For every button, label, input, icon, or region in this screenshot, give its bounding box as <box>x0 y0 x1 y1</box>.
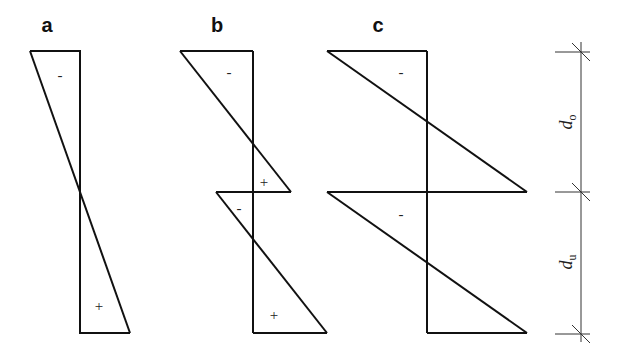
sign-minus: - <box>237 200 242 216</box>
sign-minus: - <box>58 67 63 83</box>
dimension-label-upper: do <box>556 115 579 130</box>
panel-c: - - <box>327 51 527 333</box>
panel-a: - + <box>30 51 130 333</box>
sign-minus: - <box>227 64 232 80</box>
stress-distribution-diagram: a b c - + - + - + - - <box>0 0 621 363</box>
panel-b: - + - + <box>180 51 327 333</box>
sign-plus: + <box>95 298 103 314</box>
sign-minus: - <box>399 64 404 80</box>
panel-label-b: b <box>211 14 223 36</box>
panel-label-a: a <box>41 14 53 36</box>
sign-plus: + <box>270 307 278 323</box>
panel-label-c: c <box>372 14 383 36</box>
panel-b-upper-diagonal <box>180 51 291 192</box>
dimension-label-lower: du <box>556 255 579 270</box>
dimension-line: do du <box>555 42 590 343</box>
sign-minus: - <box>399 206 404 222</box>
sign-plus: + <box>260 174 268 190</box>
